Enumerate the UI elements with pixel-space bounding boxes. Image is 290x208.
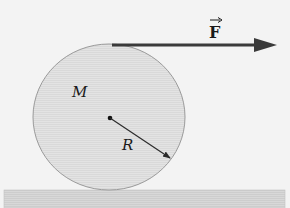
force-label: F [209,23,221,42]
radius-label: R [121,136,133,154]
mass-label: M [71,83,88,101]
diagram-canvas: M R F [0,0,290,208]
ground-surface [4,190,285,208]
vector-arrow-icon [210,18,222,23]
